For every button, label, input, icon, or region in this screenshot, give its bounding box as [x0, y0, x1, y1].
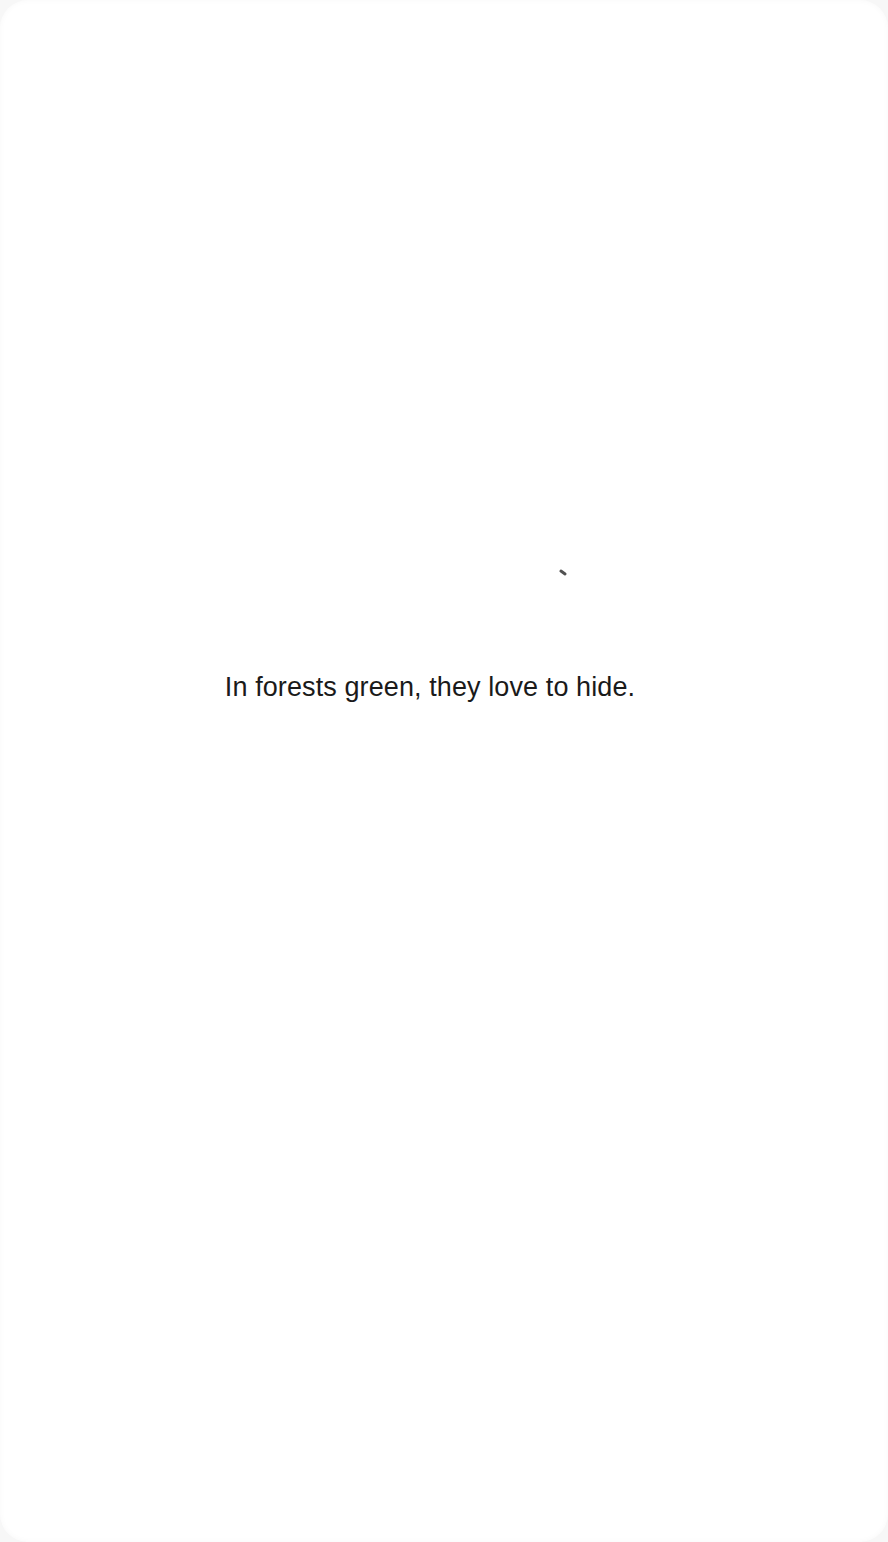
speck-mark	[559, 569, 567, 576]
document-page: In forests green, they love to hide.	[0, 0, 888, 1542]
text-line: In forests green, they love to hide.	[0, 672, 860, 703]
